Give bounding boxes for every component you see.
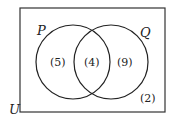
set-q-label: Q xyxy=(140,25,151,40)
universe-label: U xyxy=(9,102,21,117)
outside-count: (2) xyxy=(140,92,156,105)
venn-diagram: P Q U (5) (4) (9) (2) xyxy=(0,0,172,123)
intersection-count: (4) xyxy=(84,56,100,69)
q-only-count: (9) xyxy=(117,56,133,69)
set-p-label: P xyxy=(36,23,46,38)
p-only-count: (5) xyxy=(50,56,66,69)
